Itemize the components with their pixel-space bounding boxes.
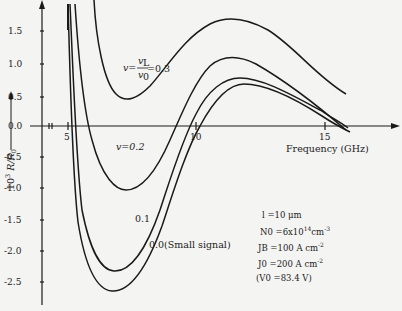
y-tick-label: 1.0: [8, 59, 23, 69]
y-tick-label: -2.5: [4, 277, 22, 287]
y-tick-label: -2.0: [4, 246, 22, 256]
param-jb: JB =100 A cm-2: [258, 241, 324, 253]
y-tick-label: -1.5: [4, 215, 22, 225]
param-j0: J0 =200 A cm-2: [258, 257, 323, 269]
y-tick-label: 1.5: [8, 26, 23, 36]
curve-label-v-0.2: v=0.2: [116, 141, 144, 152]
chart-canvas: 1.5 1.0 0.5 0.0 -0.5 -1.0 -1.5 -2.0 -2.5…: [0, 0, 402, 311]
svg-text:v=: v=: [123, 62, 136, 73]
curve-label-v-0.0: 0.0(Small signal): [149, 239, 231, 250]
curve-v-0.2: [75, 4, 346, 190]
param-v0: (V0 =83.4 V): [256, 273, 312, 283]
x-tick-label: 5: [64, 132, 70, 142]
curve-label-v-0.1: 0.1: [135, 213, 150, 224]
curve-label-v-0.3: v= v L v 0 =0.3: [123, 55, 170, 82]
svg-text:=0.3: =0.3: [147, 63, 170, 74]
param-length: l =10 μm: [262, 210, 302, 220]
x-axis-label: Frequency (GHz): [286, 143, 369, 154]
svg-text:103 R/R0: 103 R/R0: [4, 149, 18, 190]
param-doping: N0 =6x1014cm-3: [260, 225, 330, 237]
x-tick-label: 15: [319, 132, 331, 142]
x-axis-arrow-icon: [391, 123, 400, 129]
y-tick-label: 0.0: [8, 121, 23, 131]
y-axis-arrow-icon: [39, 0, 45, 9]
y-axis-label: 103 R/R0: [4, 149, 18, 190]
